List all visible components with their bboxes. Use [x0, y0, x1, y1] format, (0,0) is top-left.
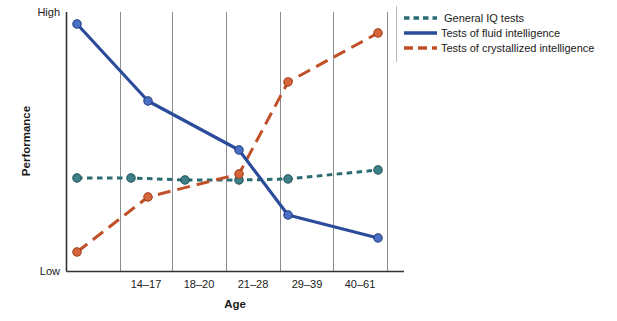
y-axis-low-label: Low	[40, 265, 60, 277]
data-point	[73, 20, 81, 28]
x-tick-label-3: 29–39	[292, 278, 323, 290]
x-tick-label-0: 14–17	[131, 278, 162, 290]
data-point	[73, 248, 81, 256]
x-tick-label-4: 40–61	[345, 278, 376, 290]
data-point	[144, 193, 152, 201]
x-tick-label-1: 18–20	[184, 278, 215, 290]
y-axis-high-label: High	[37, 6, 60, 18]
chart-figure: High Low Performance 14–17 18–20 21–28 2…	[0, 0, 617, 321]
data-point	[181, 176, 189, 184]
data-point	[127, 174, 135, 182]
data-point	[284, 211, 292, 219]
x-axis-title: Age	[224, 298, 246, 310]
y-axis-title: Performance	[20, 106, 32, 176]
data-point	[235, 170, 243, 178]
data-point	[235, 146, 243, 154]
legend-label-general-iq-tests: General IQ tests	[444, 12, 525, 24]
legend-label-crystallized-intelligence: Tests of crystallized intelligence	[441, 42, 594, 54]
line-chart-svg: High Low Performance 14–17 18–20 21–28 2…	[0, 0, 617, 321]
legend-label-fluid-intelligence: Tests of fluid intelligence	[441, 27, 560, 39]
data-point	[144, 97, 152, 105]
data-point	[374, 234, 382, 242]
data-point	[374, 166, 382, 174]
data-point	[73, 174, 81, 182]
x-tick-label-2: 21–28	[238, 278, 269, 290]
data-point	[284, 78, 292, 86]
data-point	[284, 175, 292, 183]
data-point	[374, 29, 382, 37]
